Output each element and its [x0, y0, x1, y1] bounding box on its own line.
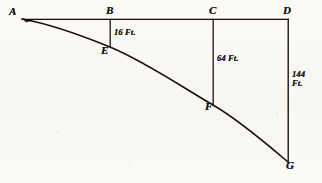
point-label-d: D	[283, 5, 291, 16]
point-label-a: A	[9, 6, 17, 17]
trajectory-curve	[22, 19, 288, 162]
dimension-label-144ft: 144 Ft.	[292, 70, 305, 87]
figure-root: A B C D E F G 16 Ft. 64 Ft. 144 Ft.	[0, 0, 322, 183]
point-label-f: F	[205, 101, 213, 112]
point-label-e: E	[101, 45, 109, 56]
point-label-b: B	[106, 5, 114, 16]
figure-drawing	[0, 0, 322, 183]
dimension-label-64ft: 64 Ft.	[217, 54, 238, 63]
dimension-label-16ft: 16 Ft.	[114, 28, 135, 37]
point-label-g: G	[286, 160, 294, 171]
point-label-c: C	[209, 5, 217, 16]
